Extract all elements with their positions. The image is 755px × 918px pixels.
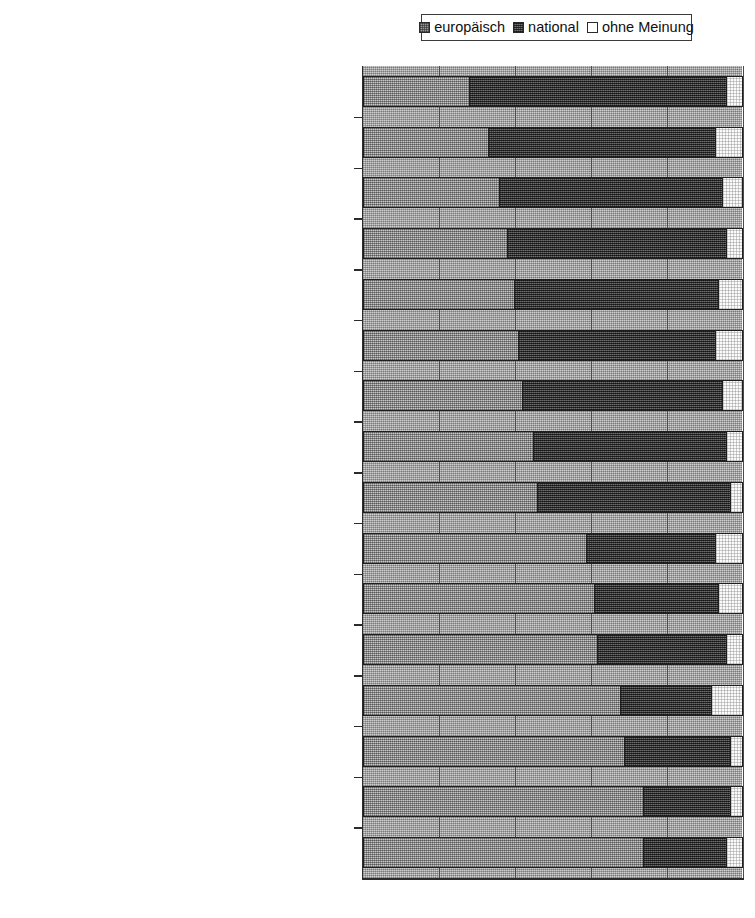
- bar-segment-europ-isch: [364, 229, 508, 258]
- bar-segment-europ-isch: [364, 128, 489, 157]
- y-tick: [354, 421, 362, 423]
- bar-segment-national: [500, 178, 723, 207]
- bar-segment-europ-isch: [364, 534, 587, 563]
- bar-row: [363, 685, 743, 716]
- bar-segment-ohne-meinung: [716, 534, 742, 563]
- bar-row: [363, 583, 743, 614]
- bar-segment-ohne-meinung: [727, 432, 742, 461]
- y-tick: [354, 624, 362, 626]
- bar-segment-national: [534, 432, 727, 461]
- bar-row: [363, 127, 743, 158]
- bar-segment-europ-isch: [364, 483, 538, 512]
- bar-row: [363, 380, 743, 411]
- bar-segment-ohne-meinung: [719, 280, 742, 309]
- bar-segment-national: [515, 280, 719, 309]
- bar-segment-europ-isch: [364, 178, 500, 207]
- bar-segment-europ-isch: [364, 432, 534, 461]
- bar-segment-national: [644, 787, 731, 816]
- bar-row: [363, 482, 743, 513]
- bar-segment-ohne-meinung: [727, 77, 742, 106]
- bar-row: [363, 634, 743, 665]
- y-tick: [354, 675, 362, 677]
- bar-segment-national: [523, 381, 723, 410]
- bar-row: [363, 330, 743, 361]
- bar-row: [363, 177, 743, 208]
- bar-segment-national: [587, 534, 716, 563]
- bar-row: [363, 279, 743, 310]
- bar-segment-national: [621, 686, 712, 715]
- bar-row: [363, 228, 743, 259]
- bar-segment-national: [598, 635, 727, 664]
- bar-row: [363, 431, 743, 462]
- bar-segment-ohne-meinung: [716, 128, 742, 157]
- legend-entry-europaeisch: europäisch: [419, 20, 505, 35]
- bar-segment-ohne-meinung: [727, 635, 742, 664]
- y-tick: [354, 269, 362, 271]
- bar-segment-ohne-meinung: [731, 737, 742, 766]
- legend-swatch-icon-europaeisch: [419, 22, 430, 33]
- bar-segment-national: [644, 838, 727, 867]
- bar-segment-ohne-meinung: [731, 483, 742, 512]
- bar-segment-ohne-meinung: [716, 331, 742, 360]
- bar-segment-europ-isch: [364, 77, 470, 106]
- y-tick: [354, 168, 362, 170]
- legend-entry-national: national: [513, 20, 579, 35]
- bar-segment-ohne-meinung: [723, 178, 742, 207]
- bar-segment-europ-isch: [364, 787, 644, 816]
- bar-segment-national: [625, 737, 731, 766]
- bar-segment-national: [470, 77, 727, 106]
- stacked-bar-chart: europäisch national ohne Meinung Soziale…: [0, 0, 755, 918]
- y-tick: [354, 523, 362, 525]
- legend-entry-ohne-meinung: ohne Meinung: [587, 20, 694, 35]
- bar-segment-national: [538, 483, 731, 512]
- y-tick: [354, 472, 362, 474]
- bar-segment-europ-isch: [364, 331, 519, 360]
- gridline-100: [743, 66, 744, 878]
- bar-segment-ohne-meinung: [712, 686, 742, 715]
- legend-swatch-icon-national: [513, 22, 524, 33]
- legend-label-ohne-meinung: ohne Meinung: [602, 20, 694, 35]
- bar-segment-national: [508, 229, 727, 258]
- bar-segment-ohne-meinung: [727, 838, 742, 867]
- bar-row: [363, 533, 743, 564]
- plot-area: [362, 66, 742, 878]
- bar-segment-europ-isch: [364, 635, 598, 664]
- y-tick: [354, 218, 362, 220]
- bar-segment-ohne-meinung: [727, 229, 742, 258]
- bar-row: [363, 76, 743, 107]
- bar-row: [363, 786, 743, 817]
- bar-segment-ohne-meinung: [719, 584, 742, 613]
- bar-segment-europ-isch: [364, 686, 621, 715]
- y-tick: [354, 371, 362, 373]
- bar-segment-europ-isch: [364, 584, 595, 613]
- legend-label-europaeisch: europäisch: [434, 20, 505, 35]
- bar-segment-europ-isch: [364, 737, 625, 766]
- y-tick: [354, 574, 362, 576]
- bar-segment-national: [489, 128, 716, 157]
- legend-label-national: national: [528, 20, 579, 35]
- y-tick: [354, 320, 362, 322]
- bar-segment-europ-isch: [364, 838, 644, 867]
- x-axis-line: [362, 878, 744, 880]
- y-tick: [354, 117, 362, 119]
- bar-segment-national: [595, 584, 720, 613]
- bar-row: [363, 837, 743, 868]
- bar-segment-europ-isch: [364, 381, 523, 410]
- bar-segment-europ-isch: [364, 280, 515, 309]
- bar-segment-ohne-meinung: [731, 787, 742, 816]
- chart-legend: europäisch national ohne Meinung: [421, 14, 692, 41]
- bar-segment-ohne-meinung: [723, 381, 742, 410]
- y-tick: [354, 726, 362, 728]
- y-tick: [354, 827, 362, 829]
- bar-row: [363, 736, 743, 767]
- y-tick: [354, 777, 362, 779]
- legend-swatch-icon-ohne-meinung: [587, 22, 598, 33]
- bar-segment-national: [519, 331, 716, 360]
